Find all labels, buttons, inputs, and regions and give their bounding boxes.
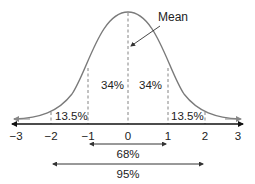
bell-curve bbox=[14, 12, 240, 119]
span-68-label: 68% bbox=[116, 148, 139, 160]
tick-label: 2 bbox=[202, 130, 208, 142]
normal-distribution-diagram: Mean 13.5% 34% 34% 13.5% −3 −2 −1 0 1 2 … bbox=[0, 0, 255, 184]
tick-label: 3 bbox=[235, 130, 241, 142]
tick-label: −1 bbox=[81, 130, 94, 142]
tick-label: −3 bbox=[9, 130, 22, 142]
region-label-plus-2: 13.5% bbox=[171, 110, 204, 122]
region-label-minus-1: 34% bbox=[101, 79, 124, 91]
tick-label: 0 bbox=[125, 130, 131, 142]
mean-label: Mean bbox=[158, 10, 188, 24]
tick-label: 1 bbox=[165, 130, 171, 142]
tick-label: −2 bbox=[44, 130, 57, 142]
region-label-plus-1: 34% bbox=[139, 79, 162, 91]
region-label-minus-2: 13.5% bbox=[55, 110, 88, 122]
span-95-label: 95% bbox=[116, 168, 139, 180]
